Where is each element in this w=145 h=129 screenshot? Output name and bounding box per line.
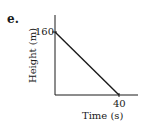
y-axis-label: Height (m)	[27, 26, 38, 86]
y-tick-label: 160	[35, 26, 54, 37]
x-axis-label: Time (s)	[82, 110, 123, 121]
data-line	[55, 32, 119, 95]
x-tick-label: 40	[113, 98, 126, 109]
